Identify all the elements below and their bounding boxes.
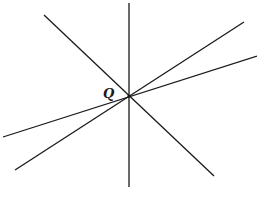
concurrent-lines-diagram: Q: [0, 0, 257, 197]
point-label-q: Q: [103, 86, 115, 101]
intersection-point: [127, 94, 130, 97]
